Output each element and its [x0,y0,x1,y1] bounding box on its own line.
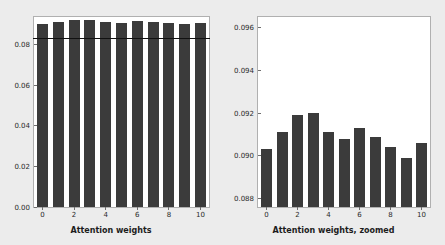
bar [195,23,206,207]
chart-panel-left: 0.000.020.040.060.08 0246810 Attention w… [0,0,222,245]
y-tick-label: 0.02 [14,163,34,170]
y-tick-label: 0.088 [234,195,258,202]
y-tick-label: 0.092 [234,110,258,117]
bar [100,22,111,207]
plot-area-left: 0.000.020.040.060.08 0246810 [33,16,210,208]
x-tick-label: 4 [326,212,330,219]
bar [401,158,412,207]
x-tick-mark [297,207,298,210]
x-tick-mark [359,207,360,210]
bar [163,23,174,207]
x-axis-label-right: Attention weights, zoomed [222,226,445,235]
x-tick-label: 4 [103,212,107,219]
x-tick-label: 10 [196,212,205,219]
reference-line [33,38,210,39]
x-tick-label: 2 [72,212,76,219]
bar [292,115,303,207]
bar [132,21,143,207]
y-tick-mark [258,70,261,71]
y-tick-label: 0.094 [234,67,258,74]
x-tick-label: 8 [167,212,171,219]
y-tick-mark [258,113,261,114]
bar [84,20,95,207]
y-tick-label: 0.00 [14,204,34,211]
bar [53,22,64,207]
x-axis-label-left: Attention weights [0,226,222,235]
x-tick-mark [137,207,138,210]
y-tick-mark [258,27,261,28]
y-tick-mark [258,198,261,199]
x-tick-mark [328,207,329,210]
x-tick-label: 0 [40,212,44,219]
y-tick-label: 0.090 [234,153,258,160]
bar [354,128,365,207]
bar [148,22,159,207]
x-tick-mark [168,207,169,210]
bar [179,24,190,207]
x-tick-label: 8 [388,212,392,219]
bar [261,149,272,207]
bar [116,23,127,208]
y-tick-mark [34,207,37,208]
figure: 0.000.020.040.060.08 0246810 Attention w… [0,0,445,245]
x-tick-mark [105,207,106,210]
y-tick-mark [34,44,37,45]
bar [69,20,80,207]
x-tick-label: 6 [357,212,361,219]
x-tick-mark [421,207,422,210]
x-tick-mark [74,207,75,210]
bar [339,139,350,207]
y-tick-mark [34,166,37,167]
chart-panel-right: 0.0880.0900.0920.0940.096 0246810 Attent… [222,0,445,245]
y-tick-mark [258,155,261,156]
bar [308,113,319,207]
bar-series-right [258,17,430,207]
x-tick-mark [266,207,267,210]
y-tick-mark [34,125,37,126]
x-tick-label: 2 [295,212,299,219]
x-tick-label: 6 [135,212,139,219]
y-tick-mark [34,85,37,86]
bar [385,147,396,207]
x-tick-label: 0 [264,212,268,219]
y-tick-label: 0.06 [14,82,34,89]
bar-series-left [34,17,209,207]
x-tick-label: 10 [417,212,426,219]
plot-area-right: 0.0880.0900.0920.0940.096 0246810 [257,16,431,208]
y-tick-label: 0.08 [14,41,34,48]
bar [277,132,288,207]
bar [323,132,334,207]
bar [37,24,48,207]
bar [370,137,381,207]
x-tick-mark [42,207,43,210]
bar [416,143,427,207]
x-tick-mark [200,207,201,210]
x-tick-mark [390,207,391,210]
y-tick-label: 0.096 [234,25,258,32]
y-tick-label: 0.04 [14,123,34,130]
